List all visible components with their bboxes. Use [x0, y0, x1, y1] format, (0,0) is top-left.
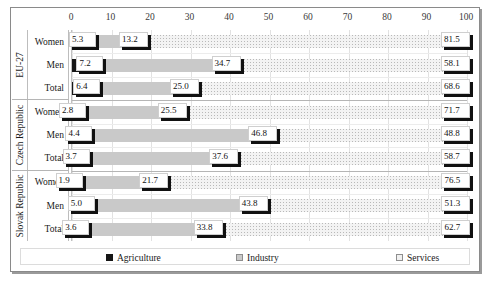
bar-segment-services — [235, 152, 467, 165]
chart-legend: AgricultureIndustryServices — [20, 248, 470, 265]
x-axis-tick-50: 50 — [264, 12, 274, 22]
category-label: Total — [45, 224, 64, 234]
data-label-industry: 13.2 — [119, 32, 148, 47]
category-label: Women — [35, 37, 64, 47]
x-axis-tick-90: 90 — [422, 12, 432, 22]
bar-row — [72, 82, 467, 95]
bar-segment-industry — [89, 129, 274, 142]
data-label-agriculture: 2.8 — [59, 103, 86, 118]
data-label-services: 71.7 — [441, 103, 470, 118]
data-label-industry: 25.0 — [170, 79, 199, 94]
category-label-cell: Women — [18, 30, 69, 53]
row-separator — [72, 218, 467, 219]
data-label-services: 58.1 — [441, 56, 470, 71]
data-label-agriculture: 3.6 — [62, 220, 89, 235]
data-label-agriculture: 5.3 — [69, 32, 96, 47]
category-label-cell: Men — [18, 53, 69, 76]
category-label-cell: Total — [18, 77, 69, 100]
x-axis-tick-20: 20 — [145, 12, 155, 22]
category-label: Total — [45, 83, 64, 93]
legend-item-services[interactable]: Services — [396, 251, 439, 264]
data-label-services: 58.7 — [441, 149, 470, 164]
data-label-industry: 21.7 — [139, 173, 168, 188]
bar-row — [72, 152, 467, 165]
x-axis-tick-0: 0 — [69, 12, 74, 22]
bar-row — [72, 106, 467, 119]
row-separator — [72, 194, 467, 195]
category-label-cell: Men — [18, 124, 69, 147]
data-label-services: 62.7 — [441, 220, 470, 235]
group-separator — [72, 100, 467, 101]
agriculture-swatch-icon — [106, 254, 113, 261]
legend-label: Services — [407, 253, 439, 263]
data-label-services: 76.5 — [441, 173, 470, 188]
data-label-agriculture: 4.4 — [65, 126, 92, 141]
data-label-services: 51.3 — [441, 196, 470, 211]
bar-row — [72, 223, 467, 236]
bar-segment-services — [145, 35, 467, 48]
legend-item-industry[interactable]: Industry — [236, 251, 279, 264]
row-separator — [72, 53, 467, 54]
legend-item-agriculture[interactable]: Agriculture — [106, 251, 161, 264]
bar-segment-services — [220, 223, 468, 236]
data-label-industry: 37.6 — [209, 149, 238, 164]
bar-segment-services — [265, 199, 468, 212]
data-label-services: 68.6 — [441, 79, 470, 94]
data-label-agriculture: 7.2 — [76, 56, 103, 71]
row-separator — [72, 124, 467, 125]
x-axis-tick-30: 30 — [185, 12, 195, 22]
legend-label: Agriculture — [117, 253, 161, 263]
data-label-industry: 34.7 — [212, 56, 241, 71]
data-label-agriculture: 3.7 — [63, 149, 90, 164]
bar-segment-services — [184, 106, 467, 119]
bar-segment-services — [165, 176, 467, 189]
data-label-industry: 46.8 — [248, 126, 277, 141]
data-label-agriculture: 6.4 — [73, 79, 100, 94]
x-axis-tick-70: 70 — [343, 12, 353, 22]
data-label-industry: 25.5 — [158, 103, 187, 118]
x-axis-tick-10: 10 — [106, 12, 116, 22]
chart-figure: 0102030405060708090100 EU-27Czech Republ… — [0, 0, 491, 281]
industry-swatch-icon — [236, 254, 243, 261]
category-label: Men — [47, 130, 64, 140]
row-separator — [72, 77, 467, 78]
category-label: Men — [47, 201, 64, 211]
data-label-industry: 43.8 — [239, 196, 268, 211]
x-axis-tick-100: 100 — [459, 12, 473, 22]
bar-row — [72, 199, 467, 212]
bar-row — [72, 59, 467, 72]
services-swatch-icon — [396, 254, 403, 261]
x-axis-tick-labels: 0102030405060708090100 — [0, 12, 491, 28]
x-axis-tick-60: 60 — [303, 12, 313, 22]
group-separator — [72, 171, 467, 172]
category-label: Men — [47, 60, 64, 70]
x-axis-tick-40: 40 — [224, 12, 234, 22]
data-label-agriculture: 5.0 — [68, 196, 95, 211]
category-label-cell: Men — [18, 194, 69, 217]
data-label-agriculture: 1.9 — [56, 173, 83, 188]
row-separator — [72, 147, 467, 148]
data-label-services: 81.5 — [441, 32, 470, 47]
category-label-column: WomenMenTotalWomenMenTotalWomenMenTotal — [18, 30, 69, 241]
legend-label: Industry — [247, 253, 279, 263]
bar-segment-services — [238, 59, 467, 72]
data-label-industry: 33.8 — [194, 220, 223, 235]
category-label: Total — [45, 153, 64, 163]
bar-segment-services — [196, 82, 467, 95]
x-axis-tick-80: 80 — [382, 12, 392, 22]
bar-row — [72, 176, 467, 189]
category-label-cell: Total — [18, 147, 69, 170]
bar-segment-services — [274, 129, 467, 142]
data-label-services: 48.8 — [441, 126, 470, 141]
